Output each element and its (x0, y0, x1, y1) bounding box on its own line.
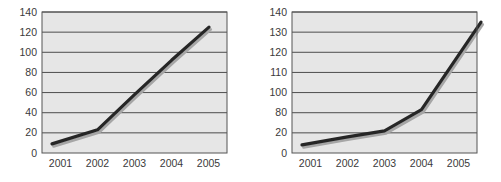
x-axis-tick-label: 2005 (447, 157, 471, 169)
y-axis-tick-label: 140 (269, 6, 287, 18)
y-axis-tick-label: 120 (269, 46, 287, 58)
x-axis-tick-label: 2002 (86, 157, 110, 169)
x-axis-tick-label: 2001 (49, 157, 73, 169)
x-axis-tick-label-group: 20012002200320042005 (49, 157, 221, 169)
x-axis-tick-label: 2001 (299, 157, 323, 169)
y-axis-tick-label: 80 (25, 66, 37, 78)
chart-page: 020406080100120140 20012002200320042005 … (0, 0, 501, 182)
y-axis-tick-label: 0 (281, 147, 287, 159)
left-chart-svg: 020406080100120140 20012002200320042005 (0, 0, 250, 182)
x-axis-tick-label: 2002 (336, 157, 360, 169)
y-axis-tick-label: 80 (275, 106, 287, 118)
y-axis-tick-label: 100 (269, 86, 287, 98)
plot-background (42, 12, 227, 153)
y-axis-tick-label: 20 (25, 126, 37, 138)
y-axis-tick-label: 100 (19, 46, 37, 58)
x-axis-tick-label-group: 20012002200320042005 (299, 157, 471, 169)
x-axis-tick-label: 2004 (160, 157, 184, 169)
y-axis-tick-label: 140 (19, 6, 37, 18)
right-chart-svg: 02080100110120130140 2001200220032004200… (250, 0, 501, 182)
x-axis-tick-label: 2005 (197, 157, 221, 169)
y-axis-tick-label-group: 020406080100120140 (19, 6, 37, 159)
x-axis-tick-label: 2003 (373, 157, 397, 169)
left-line-chart: 020406080100120140 20012002200320042005 (0, 0, 250, 182)
right-line-chart: 02080100110120130140 2001200220032004200… (250, 0, 501, 182)
x-axis-tick-label: 2004 (410, 157, 434, 169)
x-axis-tick-label: 2003 (123, 157, 147, 169)
y-axis-tick-label-group: 02080100110120130140 (269, 6, 287, 159)
left-plot-background-group (42, 12, 227, 153)
y-axis-tick-label: 120 (19, 26, 37, 38)
y-axis-tick-label: 110 (270, 66, 287, 78)
y-axis-tick-label: 40 (25, 106, 37, 118)
y-axis-tick-label: 0 (31, 147, 37, 159)
y-axis-tick-label: 130 (269, 26, 287, 38)
y-axis-tick-label: 20 (275, 126, 287, 138)
y-axis-tick-label: 60 (25, 86, 37, 98)
